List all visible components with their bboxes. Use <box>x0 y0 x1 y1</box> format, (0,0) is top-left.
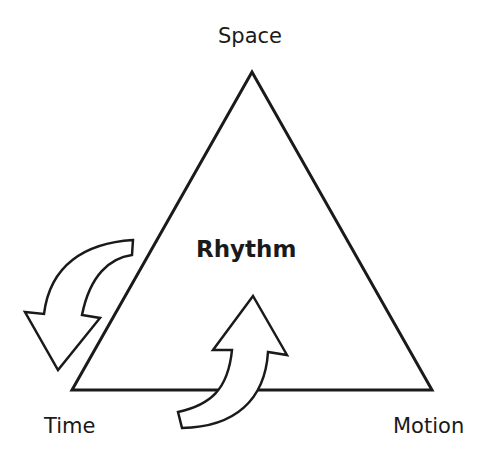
vertex-label-motion: Motion <box>393 414 464 438</box>
vertex-label-time: Time <box>44 414 95 438</box>
vertex-label-space: Space <box>218 24 282 48</box>
diagram-canvas <box>0 0 504 456</box>
center-label: Rhythm <box>196 236 296 262</box>
